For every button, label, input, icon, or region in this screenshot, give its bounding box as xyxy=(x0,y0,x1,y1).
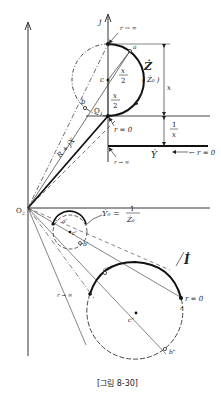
label-point-r: r xyxy=(180,304,184,311)
point-c-dprime xyxy=(135,312,138,315)
label-x-half-den: 2 xyxy=(121,77,125,85)
label-Y0-num: 1 xyxy=(130,205,134,213)
vector-R-jX xyxy=(28,116,108,208)
point-b-dprime xyxy=(163,347,166,350)
point-c-prime xyxy=(69,231,72,234)
point-b-prime xyxy=(79,242,82,245)
label-I: İ xyxy=(183,252,190,267)
label-Y0: Ẏ₀ = xyxy=(102,209,120,218)
point-r-zero xyxy=(179,296,183,300)
label-x-half-num: x xyxy=(121,67,125,75)
inverted-arc-thick xyxy=(53,211,86,224)
label-point-c-dprime: c" xyxy=(128,316,134,323)
label-r-zero-i: r = 0 xyxy=(185,295,204,303)
label-r-inf-y: r → ∞ xyxy=(114,159,129,165)
label-point-b: b xyxy=(81,98,86,106)
label-Z: Ż xyxy=(143,59,153,73)
line-o2-down-dashed xyxy=(28,208,170,270)
vertical-axis-o2 xyxy=(25,22,31,356)
line-o2-top-dashdot xyxy=(28,44,108,208)
label-point-c-prime: c' xyxy=(72,229,77,236)
label-x-half-den2: 2 xyxy=(113,102,117,110)
j-axis-label: j xyxy=(97,17,102,26)
arrow-r-inf-y xyxy=(110,149,116,157)
line-o2-down-1 xyxy=(28,208,86,345)
label-r-inf-i: r → ∞ xyxy=(57,292,72,298)
leader-I xyxy=(176,252,184,266)
point-a-prime-end xyxy=(51,222,54,225)
label-r-zero-o1: r = 0 xyxy=(114,126,133,134)
label-point-a-prime: a' xyxy=(62,217,68,224)
circle-diagram-svg: j r → xyxy=(0,0,221,406)
label-point-c: c xyxy=(100,76,104,84)
label-Z0: ( Ż₀ ) xyxy=(142,75,160,84)
radius-c-a xyxy=(108,51,130,80)
label-Y0-den: Ż₀ xyxy=(126,215,135,224)
label-dim-x-den: x xyxy=(172,131,176,139)
point-r-inf xyxy=(88,292,92,296)
leader-Y0 xyxy=(86,215,102,225)
label-point-b-prime: b' xyxy=(83,240,89,247)
line-o2-down-dashdot xyxy=(28,208,94,298)
label-point-a: a xyxy=(133,43,137,50)
label-Y: Ẏ xyxy=(151,149,158,160)
circle-diagram-figure: j r → xyxy=(0,0,221,406)
label-r-inf-top: r → ∞ xyxy=(120,24,137,31)
label-O2-sub: 2 xyxy=(22,211,25,216)
line-o2-tangent-dashed xyxy=(28,120,116,208)
label-x-half-num2: x xyxy=(113,92,117,100)
figure-caption: [그림 8-30] xyxy=(97,378,138,388)
line-o2-down-3 xyxy=(28,208,182,298)
label-point-b-dprime: b" xyxy=(169,348,176,355)
label-dim-1: 1 xyxy=(172,121,176,129)
point-b xyxy=(83,106,86,109)
label-point-a-dprime: a" xyxy=(103,265,110,272)
arrow-r-inf-top xyxy=(110,33,118,42)
label-r-zero-y: ← r = 0 xyxy=(189,149,216,157)
label-O1-sub: 1 xyxy=(100,111,103,116)
label-dim-x: x xyxy=(167,84,171,92)
